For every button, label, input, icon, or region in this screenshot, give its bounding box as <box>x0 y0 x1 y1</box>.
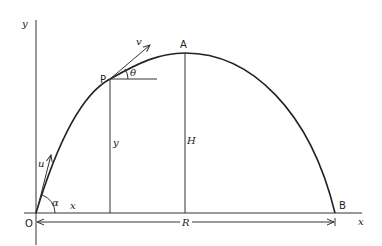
alpha-label: α <box>52 197 59 208</box>
apex-label: A <box>180 39 187 50</box>
x-axis-label: x <box>358 216 364 227</box>
x-displacement-label: x <box>70 200 76 211</box>
range-label: R <box>181 217 190 228</box>
height-label: H <box>186 135 196 146</box>
point-p-label: P <box>100 74 106 85</box>
y-axis-label: y <box>21 18 28 29</box>
u-label: u <box>38 158 44 169</box>
y-displacement-label: y <box>112 137 119 148</box>
theta-label: θ <box>130 67 136 78</box>
landing-label: B <box>339 200 346 211</box>
velocity-label: v <box>136 36 142 47</box>
projectile-diagram: y x O A B P v θ u α x y H R <box>0 0 382 246</box>
origin-label: O <box>25 218 33 229</box>
